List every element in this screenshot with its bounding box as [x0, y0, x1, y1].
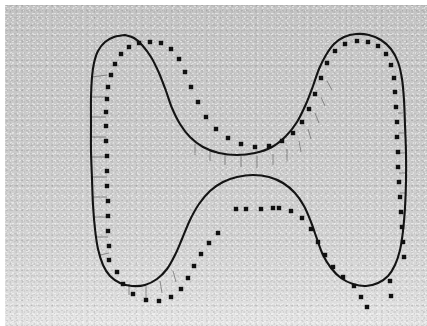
sample-point: [169, 295, 173, 299]
sample-point: [183, 70, 187, 74]
sample-point: [106, 199, 110, 203]
sample-point: [394, 105, 398, 109]
sample-point: [204, 115, 208, 119]
sample-point: [389, 294, 393, 298]
sample-point: [289, 209, 293, 213]
sample-point: [271, 206, 275, 210]
sample-point: [253, 145, 257, 149]
sample-point: [137, 41, 141, 45]
sample-point: [365, 305, 369, 309]
residual-whisker: [100, 253, 109, 255]
sample-point: [199, 252, 203, 256]
sample-point: [313, 92, 317, 96]
sample-point: [401, 240, 405, 244]
residual-whisker: [92, 75, 107, 77]
sample-point: [259, 207, 263, 211]
sample-point: [277, 206, 281, 210]
sample-point: [307, 107, 311, 111]
residual-whisker: [299, 141, 301, 152]
sample-point: [148, 40, 152, 44]
sample-point: [244, 207, 248, 211]
sample-point: [169, 47, 173, 51]
sample-point: [399, 210, 403, 214]
sample-point: [104, 110, 108, 114]
sample-point: [234, 207, 238, 211]
sample-point: [280, 139, 284, 143]
sample-point: [104, 139, 108, 143]
sample-point: [113, 62, 117, 66]
sample-point: [388, 279, 392, 283]
sample-point: [359, 295, 363, 299]
sample-point: [107, 244, 111, 248]
sample-point: [239, 142, 243, 146]
sample-point: [366, 40, 370, 44]
sample-point: [157, 299, 161, 303]
sample-point: [131, 292, 135, 296]
sample-point: [397, 180, 401, 184]
sample-point: [402, 255, 406, 259]
sample-point: [106, 85, 110, 89]
sample-point: [207, 241, 211, 245]
sample-point: [376, 44, 380, 48]
sample-point: [177, 57, 181, 61]
sample-point: [389, 63, 393, 67]
sample-point: [192, 264, 196, 268]
sample-point: [186, 276, 190, 280]
sample-point: [396, 150, 400, 154]
whisker-layer: [91, 75, 405, 298]
sample-point: [398, 195, 402, 199]
contour-curve-layer: [91, 34, 406, 286]
sample-point: [316, 240, 320, 244]
sample-point: [393, 90, 397, 94]
scanned-plate: [5, 5, 427, 326]
sample-point: [105, 97, 109, 101]
residual-whisker: [160, 281, 162, 293]
sample-point: [226, 136, 230, 140]
sample-point: [319, 76, 323, 80]
sample-point: [189, 85, 193, 89]
sample-point: [127, 45, 131, 49]
residual-whisker: [173, 271, 176, 282]
sample-point: [106, 214, 110, 218]
sample-point: [179, 287, 183, 291]
sample-point: [214, 127, 218, 131]
sample-point: [119, 52, 123, 56]
sample-point: [105, 169, 109, 173]
sample-point: [196, 100, 200, 104]
sample-point: [331, 265, 335, 269]
sample-point: [107, 258, 111, 262]
sample-point: [392, 76, 396, 80]
sample-point: [384, 52, 388, 56]
sample-point: [395, 135, 399, 139]
sample-point: [109, 73, 113, 77]
sample-point: [115, 270, 119, 274]
sample-point: [159, 41, 163, 45]
residual-whisker: [327, 81, 332, 90]
sample-point: [355, 39, 359, 43]
sample-point: [323, 253, 327, 257]
sample-point: [341, 275, 345, 279]
sample-point: [352, 284, 356, 288]
sample-point: [333, 49, 337, 53]
sample-point: [300, 120, 304, 124]
sample-point: [105, 154, 109, 158]
sample-point: [105, 184, 109, 188]
sample-point: [267, 144, 271, 148]
sample-point: [400, 225, 404, 229]
sample-point: [300, 216, 304, 220]
sample-point: [104, 124, 108, 128]
sample-point: [309, 227, 313, 231]
sample-point: [291, 131, 295, 135]
sample-point: [395, 120, 399, 124]
sample-point: [216, 231, 220, 235]
contour-curve: [91, 34, 406, 286]
sample-point: [343, 42, 347, 46]
residual-whisker: [315, 113, 319, 123]
residual-whisker: [308, 129, 311, 139]
sample-point: [325, 61, 329, 65]
figure-root: Contour fit with sampled boundary points: [0, 0, 427, 326]
sample-point: [106, 229, 110, 233]
contour-plot: [5, 5, 427, 326]
sample-point: [144, 298, 148, 302]
residual-whisker: [321, 97, 325, 106]
